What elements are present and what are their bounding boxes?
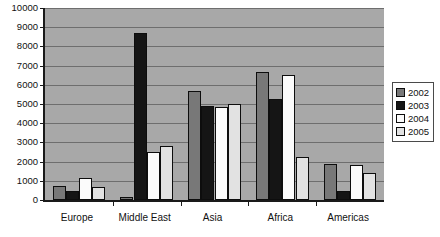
y-axis-tick-label: 8000 xyxy=(0,42,38,52)
gridline xyxy=(45,27,384,28)
plot-area xyxy=(43,8,384,202)
gridline xyxy=(45,46,384,47)
chart-legend: 2002200320042005 xyxy=(392,82,434,142)
bar-middle-east-2004 xyxy=(147,152,160,200)
gridline xyxy=(45,104,384,105)
y-axis-tick-label: 10000 xyxy=(0,3,38,13)
y-axis-tick xyxy=(40,162,45,163)
y-axis-tick-label: 6000 xyxy=(0,80,38,90)
x-axis-label-americas: Americas xyxy=(327,212,369,223)
y-axis-tick-label: 7000 xyxy=(0,61,38,71)
bar-americas-2002 xyxy=(324,164,337,200)
x-axis-label-africa: Africa xyxy=(268,212,294,223)
y-axis-tick xyxy=(40,8,45,9)
bar-europe-2004 xyxy=(79,178,92,200)
legend-item-2002: 2002 xyxy=(396,86,429,99)
bar-americas-2005 xyxy=(363,173,376,200)
y-axis-tick xyxy=(40,85,45,86)
legend-label: 2004 xyxy=(408,114,429,124)
x-axis-label-middle-east: Middle East xyxy=(119,212,171,223)
legend-item-2005: 2005 xyxy=(396,125,429,138)
chart-title xyxy=(0,0,382,4)
gridline xyxy=(45,66,384,67)
bar-africa-2002 xyxy=(256,72,269,200)
legend-label: 2002 xyxy=(408,88,429,98)
gridline xyxy=(45,85,384,86)
x-axis-tick xyxy=(113,201,114,206)
y-axis-tick xyxy=(40,46,45,47)
bar-chart: 0100020003000400050006000700080009000100… xyxy=(0,0,440,237)
y-axis-tick xyxy=(40,181,45,182)
legend-label: 2003 xyxy=(408,101,429,111)
x-axis-tick xyxy=(181,201,182,206)
bar-africa-2005 xyxy=(296,157,309,200)
bar-middle-east-2005 xyxy=(160,146,173,200)
bar-middle-east-2003 xyxy=(134,33,147,200)
y-axis-tick-label: 9000 xyxy=(0,22,38,32)
bar-africa-2003 xyxy=(269,99,282,200)
bar-europe-2003 xyxy=(66,191,79,200)
y-axis-tick-label: 4000 xyxy=(0,118,38,128)
x-axis-labels: EuropeMiddle EastAsiaAfricaAmericas xyxy=(43,212,382,232)
legend-swatch-icon xyxy=(396,88,405,97)
bar-asia-2004 xyxy=(215,107,228,200)
y-axis-labels: 0100020003000400050006000700080009000100… xyxy=(0,8,38,200)
bar-middle-east-2002 xyxy=(120,197,133,200)
y-axis-tick xyxy=(40,104,45,105)
legend-swatch-icon xyxy=(396,114,405,123)
y-axis-tick xyxy=(40,200,45,201)
y-axis-tick-label: 5000 xyxy=(0,99,38,109)
legend-item-2004: 2004 xyxy=(396,112,429,125)
bar-asia-2002 xyxy=(188,91,201,200)
bar-asia-2005 xyxy=(228,104,241,200)
x-axis-tick xyxy=(248,201,249,206)
bar-asia-2003 xyxy=(201,106,214,200)
y-axis-tick xyxy=(40,142,45,143)
bar-africa-2004 xyxy=(282,75,295,200)
y-axis-tick xyxy=(40,123,45,124)
bar-europe-2005 xyxy=(92,187,105,200)
bar-americas-2003 xyxy=(337,191,350,200)
y-axis-tick-label: 2000 xyxy=(0,157,38,167)
x-axis-label-asia: Asia xyxy=(203,212,222,223)
y-axis-tick xyxy=(40,27,45,28)
bar-europe-2002 xyxy=(53,186,66,200)
legend-swatch-icon xyxy=(396,127,405,136)
y-axis-tick-label: 0 xyxy=(0,195,38,205)
y-axis-tick-label: 1000 xyxy=(0,176,38,186)
y-axis-tick xyxy=(40,66,45,67)
y-axis-tick-label: 3000 xyxy=(0,138,38,148)
legend-label: 2005 xyxy=(408,127,429,137)
bar-americas-2004 xyxy=(350,165,363,200)
legend-item-2003: 2003 xyxy=(396,99,429,112)
x-axis-label-europe: Europe xyxy=(61,212,93,223)
legend-swatch-icon xyxy=(396,101,405,110)
x-axis-tick xyxy=(316,201,317,206)
